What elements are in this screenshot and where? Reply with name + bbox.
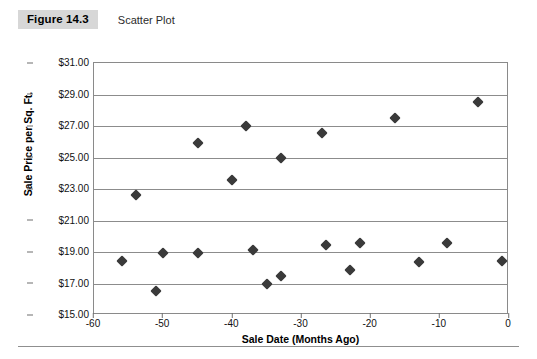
data-point xyxy=(317,127,328,138)
x-axis-tick-label: -50 xyxy=(155,318,169,329)
data-point xyxy=(275,153,286,164)
x-axis-tick-labels: -60-50-40-30-20-100 xyxy=(93,316,508,332)
x-axis-tick-label: -20 xyxy=(362,318,376,329)
figure-header: Figure 14.3 Scatter Plot xyxy=(18,10,175,29)
x-axis-tick-label: -30 xyxy=(293,318,307,329)
y-axis-tick-label: $31.00 xyxy=(33,57,89,68)
y-axis-tick-mark xyxy=(27,188,33,189)
data-point xyxy=(240,120,251,131)
x-axis-tick-mark xyxy=(370,313,371,318)
data-point xyxy=(227,175,238,186)
data-point xyxy=(413,257,424,268)
figure-number-badge: Figure 14.3 xyxy=(18,10,98,29)
y-axis-tick-label: $25.00 xyxy=(33,151,89,162)
data-points-layer xyxy=(94,63,507,313)
y-axis-tick-mark xyxy=(27,157,33,158)
data-point xyxy=(130,189,141,200)
x-axis-tick-mark xyxy=(508,313,509,318)
y-axis-tick-label: $15.00 xyxy=(33,309,89,320)
y-axis-tick-label: $17.00 xyxy=(33,277,89,288)
y-axis-tick-mark xyxy=(27,251,33,252)
x-axis-tick-label: -60 xyxy=(86,318,100,329)
data-point xyxy=(116,256,127,267)
data-point xyxy=(151,285,162,296)
plot-area xyxy=(93,62,508,314)
y-axis-tick-mark xyxy=(27,314,33,315)
data-point xyxy=(261,278,272,289)
data-point xyxy=(192,138,203,149)
x-axis-tick-label: -10 xyxy=(432,318,446,329)
y-axis-tick-mark xyxy=(27,220,33,221)
y-axis-tick-label: $21.00 xyxy=(33,214,89,225)
x-axis-tick-mark xyxy=(93,313,94,318)
scatter-chart: Sale Price per Sq. Ft. $15.00$17.00$19.0… xyxy=(0,34,537,334)
data-point xyxy=(496,256,507,267)
data-point xyxy=(344,264,355,275)
x-axis-title: Sale Date (Months Ago) xyxy=(93,333,508,345)
y-axis-tick-label: $29.00 xyxy=(33,88,89,99)
x-axis-tick-label: -40 xyxy=(224,318,238,329)
data-point xyxy=(192,247,203,258)
y-axis-tick-label: $27.00 xyxy=(33,120,89,131)
y-axis-tick-mark xyxy=(27,125,33,126)
data-point xyxy=(157,247,168,258)
data-point xyxy=(389,112,400,123)
y-axis-tick-labels: $15.00$17.00$19.00$21.00$23.00$25.00$27.… xyxy=(27,62,89,314)
data-point xyxy=(247,244,258,255)
x-axis-tick-mark xyxy=(300,313,301,318)
data-point xyxy=(441,238,452,249)
y-axis-tick-label: $23.00 xyxy=(33,183,89,194)
x-axis-tick-mark xyxy=(162,313,163,318)
figure-caption: Scatter Plot xyxy=(118,14,175,26)
y-axis-tick-label: $19.00 xyxy=(33,246,89,257)
x-axis-tick-label: 0 xyxy=(505,318,511,329)
data-point xyxy=(472,97,483,108)
x-axis-tick-mark xyxy=(231,313,232,318)
footer-divider xyxy=(18,346,519,347)
y-axis-tick-mark xyxy=(27,62,33,63)
x-axis-tick-mark xyxy=(439,313,440,318)
data-point xyxy=(320,239,331,250)
y-axis-tick-mark xyxy=(27,283,33,284)
data-point xyxy=(275,270,286,281)
data-point xyxy=(355,238,366,249)
y-axis-tick-mark xyxy=(27,94,33,95)
